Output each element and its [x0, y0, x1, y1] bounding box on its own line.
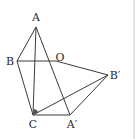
geometry-diagram: A B O B′ C A′: [0, 0, 136, 139]
label-c: C: [29, 118, 37, 131]
segment-a-ap: [36, 27, 70, 115]
segment-b-c: [17, 61, 33, 115]
segment-bp-ap: [70, 75, 108, 115]
label-b-prime: B′: [110, 69, 121, 82]
label-a: A: [31, 11, 41, 24]
segment-a-c: [33, 27, 36, 115]
segment-c-bp: [33, 75, 108, 115]
label-a-prime: A′: [66, 118, 78, 131]
label-o: O: [55, 51, 64, 64]
segments: [17, 27, 108, 115]
label-b: B: [6, 55, 14, 68]
segment-a-b: [17, 27, 36, 61]
point-labels: A B O B′ C A′: [6, 11, 121, 131]
